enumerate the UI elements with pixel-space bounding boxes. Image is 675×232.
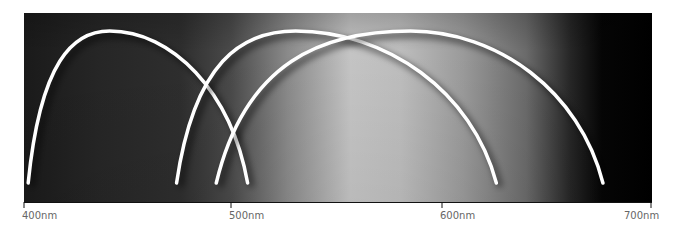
- x-tick-label-500: 500nm: [229, 210, 264, 221]
- x-axis: 400nm 500nm 600nm 700nm: [22, 202, 659, 221]
- x-tick-label-600: 600nm: [440, 210, 475, 221]
- x-tick-label-700: 700nm: [624, 210, 659, 221]
- x-tick-label-400: 400nm: [22, 210, 57, 221]
- spectrum-chart: 400nm 500nm 600nm 700nm: [0, 0, 675, 232]
